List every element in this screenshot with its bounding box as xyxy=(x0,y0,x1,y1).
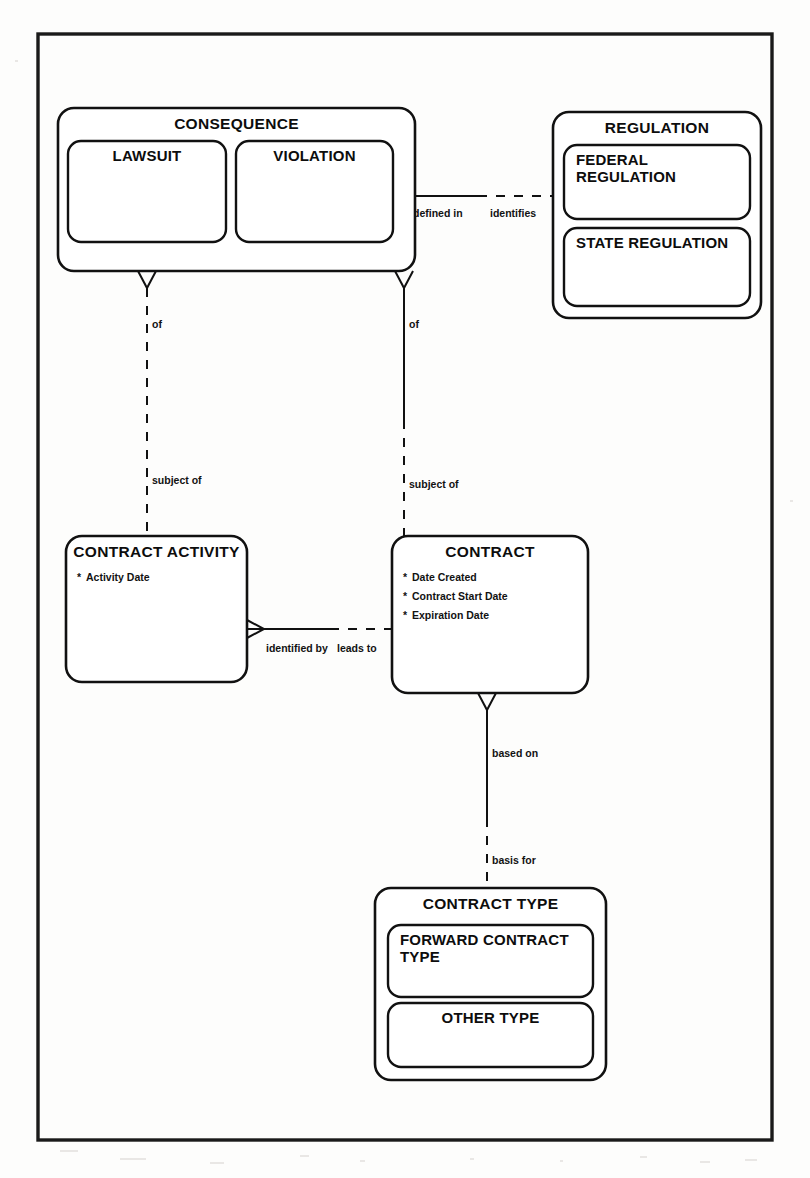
sub-entity-federal-regulation[interactable]: FEDERALREGULATION xyxy=(564,145,750,219)
sub-entity-title: FORWARD CONTRACT xyxy=(400,931,569,948)
scan-speck xyxy=(210,1162,224,1164)
sub-entity-violation[interactable]: VIOLATION xyxy=(236,141,393,242)
scan-speck xyxy=(470,1158,474,1160)
sub-entity-title: TYPE xyxy=(400,948,440,965)
scan-speck xyxy=(300,1155,309,1157)
relationship-label-from: of xyxy=(409,318,419,330)
scan-speck xyxy=(360,1160,365,1162)
relationship-label-to: basis for xyxy=(492,854,536,866)
scan-speck xyxy=(120,1158,146,1160)
relationship-label-from: of xyxy=(152,318,162,330)
entity-title: REGULATION xyxy=(605,119,709,136)
sub-entity-lawsuit[interactable]: LAWSUIT xyxy=(68,141,226,242)
sub-entity-forward-contract-type[interactable]: FORWARD CONTRACTTYPE xyxy=(388,925,593,997)
entity-contract-type[interactable]: CONTRACT TYPEFORWARD CONTRACTTYPEOTHER T… xyxy=(375,888,606,1080)
crowfoot-marker xyxy=(138,271,156,288)
entity-consequence[interactable]: CONSEQUENCELAWSUITVIOLATION xyxy=(58,108,415,271)
relationship-consequence-contract[interactable]: ofsubject of xyxy=(395,271,459,536)
scan-speck xyxy=(15,60,18,62)
scan-speck xyxy=(700,1161,710,1163)
relationship-contract-contract-type[interactable]: based onbasis for xyxy=(478,693,538,888)
entity-regulation[interactable]: REGULATIONFEDERALREGULATIONSTATE REGULAT… xyxy=(553,112,761,318)
entity-contract-activity[interactable]: CONTRACT ACTIVITY*Activity Date xyxy=(66,536,247,682)
attribute-label: Contract Start Date xyxy=(412,590,508,602)
scan-speck xyxy=(745,1159,757,1161)
entity-title: CONTRACT ACTIVITY xyxy=(73,543,240,560)
scan-speck xyxy=(790,500,793,502)
crowfoot-marker xyxy=(395,271,413,288)
entity-layer: CONSEQUENCELAWSUITVIOLATIONREGULATIONFED… xyxy=(58,108,761,1080)
relationship-consequence-contract-activity[interactable]: ofsubject of xyxy=(138,271,202,536)
scan-speck xyxy=(560,1160,563,1162)
relationship-contract-activity-contract[interactable]: identified byleads to xyxy=(247,620,392,654)
sub-entity-state-regulation[interactable]: STATE REGULATION xyxy=(564,228,750,306)
er-diagram-svg: defined inidentifiesofsubject ofofsubjec… xyxy=(0,0,810,1178)
sub-entity-title: LAWSUIT xyxy=(113,147,182,164)
attribute-label: Activity Date xyxy=(86,571,150,583)
relationship-label-to: subject of xyxy=(152,474,202,486)
sub-entity-other-type[interactable]: OTHER TYPE xyxy=(388,1003,593,1067)
sub-entity-title: STATE REGULATION xyxy=(576,234,728,251)
sub-entity-title: OTHER TYPE xyxy=(442,1009,540,1026)
sub-entity-title: FEDERAL xyxy=(576,151,648,168)
relationship-consequence-regulation[interactable]: defined inidentifies xyxy=(395,187,553,219)
entity-title: CONTRACT TYPE xyxy=(423,895,559,912)
crowfoot-marker xyxy=(478,693,496,710)
relationship-label-to: identifies xyxy=(490,207,536,219)
entity-contract[interactable]: CONTRACT*Date Created*Contract Start Dat… xyxy=(392,536,588,693)
entity-title: CONSEQUENCE xyxy=(174,115,299,132)
er-diagram-canvas: defined inidentifiesofsubject ofofsubjec… xyxy=(0,0,810,1178)
sub-entity-title: VIOLATION xyxy=(273,147,355,164)
scan-speck xyxy=(60,1150,78,1152)
attribute-label: Expiration Date xyxy=(412,609,489,621)
relationship-label-from: based on xyxy=(492,747,538,759)
attribute-label: Date Created xyxy=(412,571,477,583)
relationship-label-to: leads to xyxy=(337,642,377,654)
scan-speck xyxy=(640,1156,647,1158)
sub-entity-title: REGULATION xyxy=(576,168,676,185)
relationship-label-to: subject of xyxy=(409,478,459,490)
relationship-label-from: defined in xyxy=(413,207,463,219)
relationship-label-from: identified by xyxy=(266,642,328,654)
entity-title: CONTRACT xyxy=(445,543,535,560)
